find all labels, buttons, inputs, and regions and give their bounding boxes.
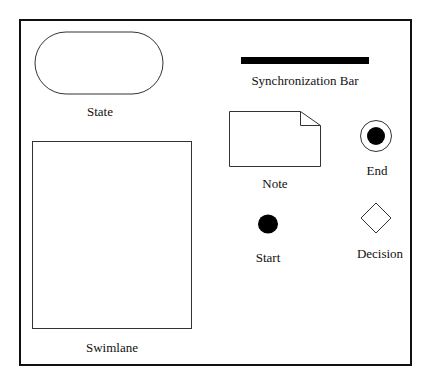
decision-label: Decision	[357, 246, 403, 261]
swimlane-label: Swimlane	[86, 340, 138, 355]
state-label: State	[87, 104, 113, 119]
start-label: Start	[256, 250, 281, 265]
state-shape[interactable]	[35, 32, 163, 94]
swimlane-shape[interactable]	[33, 142, 192, 329]
end-node-shape[interactable]	[361, 121, 392, 152]
end-label: End	[367, 163, 388, 178]
decision-shape[interactable]	[361, 203, 391, 233]
start-node-shape[interactable]	[258, 215, 278, 234]
note-shape[interactable]	[230, 112, 321, 167]
synchronization-bar-shape[interactable]	[241, 57, 369, 64]
note-label: Note	[262, 176, 287, 191]
synchronization-bar-label: Synchronization Bar	[251, 73, 358, 88]
shape-palette-canvas	[0, 0, 427, 381]
